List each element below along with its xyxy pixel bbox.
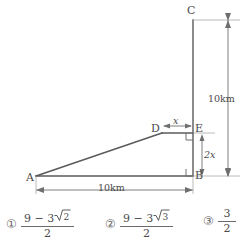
answer-option-3[interactable]: ③ 3 2 — [203, 208, 236, 234]
option-numerator-3: 3 — [221, 208, 234, 221]
radicand-2: 3 — [163, 212, 169, 222]
option-numerator-1: 9 − 32 — [21, 208, 74, 226]
point-label-B: B — [195, 170, 203, 181]
answer-option-2[interactable]: ② 9 − 33 2 — [105, 208, 173, 239]
option-fraction-1: 9 − 32 2 — [21, 208, 74, 239]
dimension-label-2x: 2x — [204, 150, 215, 160]
dimension-label-vertical-10km: 10km — [208, 94, 235, 104]
figure-page: C B A D E 10km 10km x 2x ① 9 − 32 2 ② — [0, 0, 249, 248]
option-fraction-3: 3 2 — [218, 208, 236, 234]
point-label-C: C — [187, 5, 195, 16]
answer-options: ① 9 − 32 2 ② 9 − 33 2 ③ — [0, 200, 249, 248]
arrowhead-vertical-bottom — [225, 168, 231, 176]
arrowhead-horizontal-right — [185, 187, 193, 193]
option-marker-1: ① — [6, 218, 17, 230]
option-numerator-2: 9 − 33 — [120, 208, 173, 226]
segment-AD — [36, 133, 162, 176]
option-fraction-2: 9 − 33 2 — [120, 208, 173, 239]
point-label-D: D — [151, 123, 160, 134]
arrowhead-x-left — [163, 124, 170, 129]
right-angle-mark-B — [186, 169, 193, 176]
radical-sign-1: 2 — [54, 208, 71, 222]
arrowhead-horizontal-left — [36, 187, 44, 193]
option-marker-3: ③ — [203, 215, 214, 227]
radical-sign-2: 3 — [153, 208, 170, 222]
dimension-label-horizontal-10km: 10km — [98, 183, 125, 193]
option-marker-2: ② — [105, 218, 116, 230]
option-denominator-1: 2 — [41, 227, 54, 240]
option-numerator-prefix-2: 9 − 3 — [123, 213, 153, 225]
arrowhead-vertical-top — [225, 20, 231, 28]
arrowhead-x-right — [185, 124, 192, 129]
point-label-E: E — [195, 123, 203, 134]
option-denominator-3: 2 — [221, 222, 234, 235]
point-label-A: A — [26, 172, 34, 183]
option-numerator-prefix-1: 9 − 3 — [24, 213, 54, 225]
arrowhead-2x-top — [200, 134, 205, 141]
geometry-figure: C B A D E 10km 10km x 2x — [0, 0, 249, 200]
option-denominator-2: 2 — [140, 227, 153, 240]
radicand-1: 2 — [64, 212, 70, 222]
dimension-label-x: x — [173, 116, 178, 126]
right-angle-mark-E — [186, 133, 193, 140]
answer-option-1[interactable]: ① 9 − 32 2 — [6, 208, 74, 239]
